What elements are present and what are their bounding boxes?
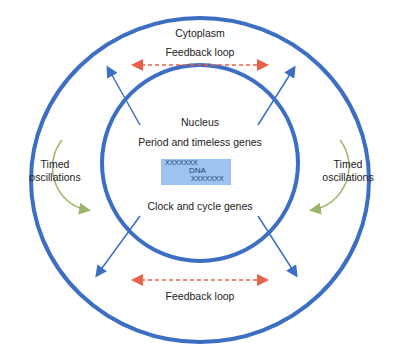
dna-strand-bottom: XXXXXXX xyxy=(161,175,231,183)
arrow-up-right xyxy=(258,68,294,125)
period-timeless-genes-label: Period and timeless genes xyxy=(120,136,280,149)
arrow-down-left xyxy=(97,216,140,275)
osc-left-line2: oscillations xyxy=(20,171,90,184)
cytoplasm-label: Cytoplasm xyxy=(150,27,250,40)
osc-right-line1: Timed xyxy=(308,158,388,171)
clock-cycle-genes-label: Clock and cycle genes xyxy=(120,200,280,213)
timed-oscillations-left: Timed oscillations xyxy=(20,158,90,184)
osc-right-line2: oscillations xyxy=(308,171,388,184)
nucleus-label: Nucleus xyxy=(150,116,250,129)
dna-label: DNA xyxy=(161,167,231,175)
dna-box: XXXXXXX DNA XXXXXXX xyxy=(161,159,231,185)
timed-oscillations-right: Timed oscillations xyxy=(308,158,388,184)
feedback-loop-bottom-label: Feedback loop xyxy=(140,290,260,303)
feedback-loop-top-label: Feedback loop xyxy=(140,46,260,59)
osc-left-line1: Timed xyxy=(20,158,90,171)
